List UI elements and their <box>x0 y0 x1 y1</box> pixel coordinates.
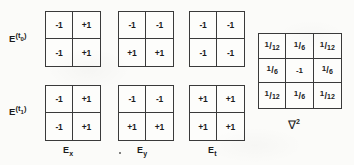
matrix-cell: +1 <box>190 86 217 113</box>
laplacian-cell: 1/12 <box>314 83 341 108</box>
fraction-one-twelfth: 1/12 <box>320 90 335 100</box>
row-label-e-t0: E(t0) <box>9 32 26 44</box>
matrix-cell: -1 <box>46 86 73 113</box>
matrix-cell: -1 <box>46 12 73 39</box>
row-label-superscript: (t0) <box>16 31 27 40</box>
scan-speck <box>119 152 121 154</box>
fraction-one-sixth: 1/6 <box>294 90 305 100</box>
matrix-cell: +1 <box>73 12 100 39</box>
laplacian-exponent: 2 <box>296 118 300 125</box>
matrix-cell: +1 <box>119 113 146 140</box>
nabla-icon: ∇ <box>288 118 296 132</box>
matrix-cell: +1 <box>73 39 100 66</box>
fraction-one-twelfth: 1/12 <box>320 41 335 51</box>
fraction-one-sixth: 1/6 <box>322 65 333 75</box>
laplacian-cell: 1/12 <box>259 83 286 108</box>
matrix-ey-t1: -1 -1 +1 +1 <box>118 85 174 141</box>
laplacian-cell-center: -1 <box>286 59 313 84</box>
fraction-one-twelfth: 1/12 <box>265 90 280 100</box>
matrix-et-t0: -1 -1 -1 -1 <box>189 11 245 67</box>
column-caption-ex: Ex <box>63 146 74 157</box>
matrix-cell: +1 <box>119 39 146 66</box>
laplacian-kernel-matrix: 1/12 1/6 1/12 1/6 -1 1/6 1/12 <box>258 33 342 109</box>
matrix-ex-t1: -1 +1 -1 +1 <box>45 85 101 141</box>
matrix-cell: -1 <box>217 39 244 66</box>
matrix-cell: -1 <box>46 113 73 140</box>
matrix-et-t1: +1 +1 +1 +1 <box>189 85 245 141</box>
row-label-e-t1: E(t1) <box>9 105 26 117</box>
matrix-cell: +1 <box>217 113 244 140</box>
laplacian-cell: 1/6 <box>314 59 341 84</box>
matrix-cell: -1 <box>146 86 173 113</box>
matrix-cell: +1 <box>146 39 173 66</box>
laplacian-cell: 1/6 <box>286 83 313 108</box>
fraction-one-twelfth: 1/12 <box>265 41 280 51</box>
matrix-cell: +1 <box>73 113 100 140</box>
laplacian-cell: 1/6 <box>259 59 286 84</box>
laplacian-cell: 1/12 <box>314 34 341 59</box>
laplacian-cell: 1/6 <box>286 34 313 59</box>
optical-flow-masks-figure: E(t0) E(t1) -1 +1 -1 +1 -1 -1 +1 +1 -1 -… <box>0 0 354 165</box>
matrix-cell: +1 <box>217 86 244 113</box>
matrix-cell: -1 <box>146 12 173 39</box>
matrix-ey-t0: -1 -1 +1 +1 <box>118 11 174 67</box>
matrix-cell: +1 <box>146 113 173 140</box>
fraction-one-sixth: 1/6 <box>294 41 305 51</box>
laplacian-caption: ∇2 <box>288 118 300 131</box>
matrix-cell: -1 <box>217 12 244 39</box>
fraction-one-sixth: 1/6 <box>267 65 278 75</box>
laplacian-cell: 1/12 <box>259 34 286 59</box>
matrix-cell: +1 <box>190 113 217 140</box>
matrix-cell: -1 <box>190 12 217 39</box>
matrix-cell: +1 <box>73 86 100 113</box>
column-caption-et: Et <box>208 146 217 157</box>
row-label-superscript: (t1) <box>16 104 27 113</box>
column-caption-ey: Ey <box>137 146 148 157</box>
matrix-cell: -1 <box>119 86 146 113</box>
matrix-cell: -1 <box>119 12 146 39</box>
matrix-cell: -1 <box>46 39 73 66</box>
matrix-cell: -1 <box>190 39 217 66</box>
matrix-ex-t0: -1 +1 -1 +1 <box>45 11 101 67</box>
